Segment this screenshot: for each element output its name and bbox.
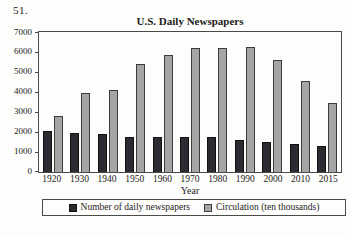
bar-1990-circulation (246, 47, 255, 172)
bar-1970-newspapers (180, 137, 189, 172)
bar-group-1950 (121, 32, 148, 172)
x-tick-label-1980: 1980 (204, 174, 232, 185)
bar-2000-circulation (273, 60, 282, 172)
bar-group-2000 (259, 32, 286, 172)
bar-1960-newspapers (153, 137, 162, 172)
bar-1930-newspapers (70, 133, 79, 172)
y-tick-label-3000: 3000 (14, 107, 32, 116)
bar-1930-circulation (81, 93, 90, 172)
plot-area (38, 31, 342, 173)
x-tick-label-1920: 1920 (38, 174, 66, 185)
bar-1990-newspapers (235, 140, 244, 172)
bar-1960-circulation (164, 55, 173, 172)
bar-1920-circulation (54, 116, 63, 172)
x-axis-labels: 1920193019401950196019701980199020002010… (38, 174, 342, 185)
bar-group-1920 (39, 32, 66, 172)
x-tick-label-2015: 2015 (314, 174, 342, 185)
bar-group-2015 (314, 32, 341, 172)
newspapers-bar-chart: U.S. Daily Newspapers 010002000300040005… (6, 15, 346, 216)
bar-group-1990 (231, 32, 258, 172)
x-tick-label-1970: 1970 (176, 174, 204, 185)
legend-item-circulation: Circulation (ten thousands) (204, 202, 319, 213)
y-tick-mark-4000 (35, 92, 39, 93)
y-tick-mark-7000 (35, 32, 39, 33)
bar-2015-circulation (328, 103, 337, 172)
bar-1980-circulation (218, 48, 227, 172)
y-tick-mark-3000 (35, 112, 39, 113)
y-tick-mark-5000 (35, 72, 39, 73)
legend-item-newspapers: Number of daily newspapers (69, 202, 190, 213)
y-tick-label-6000: 6000 (14, 47, 32, 56)
y-tick-label-1000: 1000 (14, 147, 32, 156)
bar-2015-newspapers (317, 146, 326, 172)
legend-swatch-icon (204, 204, 212, 212)
x-tick-label-1960: 1960 (149, 174, 177, 185)
y-axis: 01000200030004000500060007000 (6, 31, 38, 171)
bar-group-1930 (66, 32, 93, 172)
legend-label: Number of daily newspapers (81, 202, 190, 213)
bar-group-1960 (149, 32, 176, 172)
chart-title: U.S. Daily Newspapers (38, 15, 342, 28)
bar-group-1980 (204, 32, 231, 172)
plot-row: 01000200030004000500060007000 (6, 31, 346, 173)
bar-1950-circulation (136, 64, 145, 172)
y-tick-mark-0 (35, 171, 39, 172)
x-tick-label-1950: 1950 (121, 174, 149, 185)
x-tick-label-1940: 1940 (93, 174, 121, 185)
bar-1970-circulation (191, 48, 200, 172)
legend-swatch-icon (69, 204, 77, 212)
bar-1980-newspapers (207, 137, 216, 172)
bar-1940-newspapers (98, 134, 107, 172)
x-tick-label-2010: 2010 (287, 174, 315, 185)
y-tick-label-2000: 2000 (14, 127, 32, 136)
y-tick-mark-1000 (35, 152, 39, 153)
y-tick-label-5000: 5000 (14, 67, 32, 76)
bar-2010-newspapers (290, 144, 299, 172)
x-tick-label-2000: 2000 (259, 174, 287, 185)
bar-1940-circulation (109, 90, 118, 172)
y-tick-mark-6000 (35, 52, 39, 53)
x-tick-label-1990: 1990 (231, 174, 259, 185)
x-axis-title: Year (38, 185, 342, 196)
y-tick-mark-2000 (35, 132, 39, 133)
bar-group-2010 (286, 32, 313, 172)
bar-1950-newspapers (125, 137, 134, 172)
x-tick-label-1930: 1930 (66, 174, 94, 185)
y-tick-label-7000: 7000 (14, 27, 32, 36)
bar-1920-newspapers (43, 131, 52, 172)
bar-2010-circulation (301, 81, 310, 172)
bar-2000-newspapers (262, 142, 271, 172)
y-tick-label-0: 0 (28, 167, 33, 176)
bar-group-1940 (94, 32, 121, 172)
bar-group-1970 (176, 32, 203, 172)
legend: Number of daily newspapersCirculation (t… (42, 199, 346, 216)
legend-label: Circulation (ten thousands) (216, 202, 319, 213)
y-tick-label-4000: 4000 (14, 87, 32, 96)
